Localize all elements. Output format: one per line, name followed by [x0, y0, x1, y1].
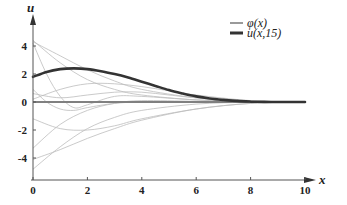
y-axis-arrow-icon	[30, 14, 36, 25]
x-tick-label: 4	[139, 184, 145, 196]
legend: φ(x) u(x,15)	[230, 16, 281, 40]
legend-label-u: u(x,15)	[247, 26, 281, 40]
phi-curves	[33, 40, 305, 169]
chart: 0246810 -4-2024 u x φ(x) u(x,15)	[0, 0, 347, 205]
x-tick-label: 10	[300, 184, 312, 196]
x-axis-arrow-icon	[304, 177, 316, 183]
y-tick-label: 0	[22, 96, 28, 108]
phi-curve	[33, 43, 305, 108]
y-axis-label: u	[27, 0, 34, 15]
phi-curve	[33, 83, 305, 102]
x-tick-label: 6	[193, 184, 199, 196]
x-tick-label: 2	[85, 184, 91, 196]
y-tick-label: -4	[18, 152, 28, 164]
y-tick-label: 4	[22, 40, 28, 52]
x-tick-label: 8	[248, 184, 254, 196]
x-tick-label: 0	[30, 184, 36, 196]
y-tick-label: 2	[22, 68, 28, 80]
y-tick-label: -2	[18, 124, 28, 136]
phi-curve	[33, 40, 305, 102]
x-axis-label: x	[318, 172, 326, 187]
phi-curve	[33, 102, 305, 169]
